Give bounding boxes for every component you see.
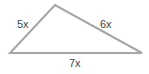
side-label-bottom: 7x — [69, 57, 81, 69]
triangle — [10, 5, 142, 53]
triangle-diagram: 5x 6x 7x — [0, 0, 149, 74]
side-label-left: 5x — [17, 18, 29, 30]
side-label-right: 6x — [100, 18, 112, 30]
